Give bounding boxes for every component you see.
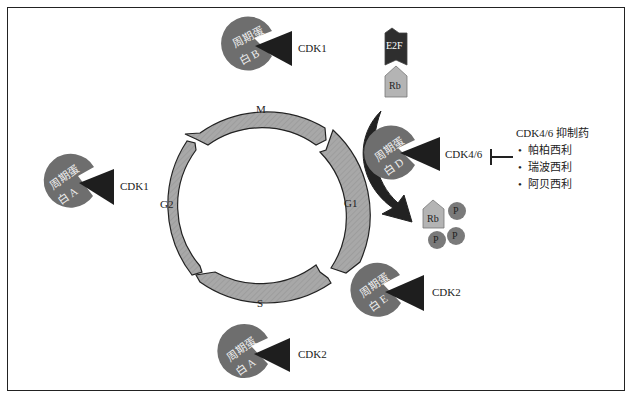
rb-label: Rb [389, 80, 401, 91]
cell-cycle-ring [168, 112, 370, 303]
cdk2-label-bottom: CDK2 [298, 348, 327, 360]
phase-label-s: S [257, 297, 263, 309]
phosphate-label-1: P [453, 205, 459, 216]
cdk1-label-left: CDK1 [120, 180, 149, 192]
phase-arrow-m [185, 112, 326, 145]
phospho-rb-label: Rb [427, 213, 439, 224]
cdk46-inhibitor-list: CDK4/6 抑制药 帕柏西利 瑞波西利 阿贝西利 [516, 125, 589, 193]
cdk1-label-top: CDK1 [298, 42, 327, 54]
inhibitor-item: 瑞波西利 [516, 159, 589, 176]
inhibition-symbol [491, 149, 513, 165]
phase-label-g1: G1 [344, 197, 357, 209]
inhibitor-list-title: CDK4/6 抑制药 [516, 125, 589, 142]
phosphate-label-2: P [433, 234, 439, 245]
inhibitor-item: 阿贝西利 [516, 176, 589, 193]
cdk46-label: CDK4/6 [445, 148, 482, 160]
phase-label-g2: G2 [160, 198, 173, 210]
phase-arrow-s [196, 265, 331, 303]
cell-cycle-diagram [0, 0, 636, 400]
phosphate-label-3: P [452, 230, 458, 241]
inhibitor-item: 帕柏西利 [516, 142, 589, 159]
cdk2-label-right: CDK2 [432, 286, 461, 298]
e2f-label: E2F [386, 40, 403, 51]
phosphorylated-rb [423, 200, 466, 249]
phase-label-m: M [256, 103, 266, 115]
